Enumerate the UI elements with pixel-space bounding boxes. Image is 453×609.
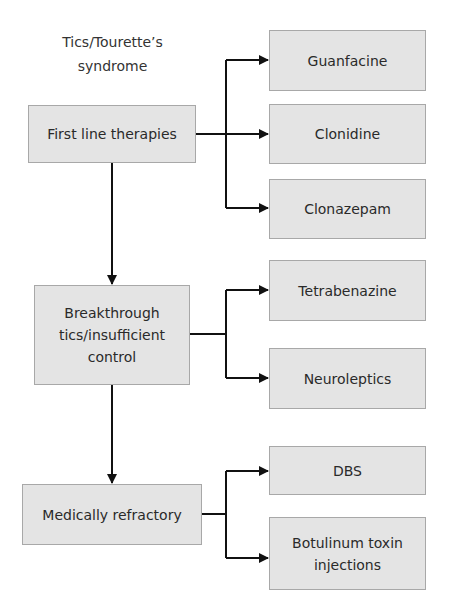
treatment-label: DBS xyxy=(333,460,362,482)
stage-label: First line therapies xyxy=(47,123,177,145)
treatment-label-line-1: Botulinum toxin xyxy=(292,532,403,554)
stage-label-line-1: Breakthrough xyxy=(64,302,159,324)
treatment-neuroleptics: Neuroleptics xyxy=(269,348,426,409)
treatment-clonidine: Clonidine xyxy=(269,104,426,164)
treatment-tetrabenazine: Tetrabenazine xyxy=(269,260,426,321)
stage-label-line-2: tics/insufficient xyxy=(59,324,165,346)
stage-first-line-therapies: First line therapies xyxy=(28,105,196,163)
stage-medically-refractory: Medically refractory xyxy=(22,484,202,545)
treatment-clonazepam: Clonazepam xyxy=(269,179,426,239)
treatment-dbs: DBS xyxy=(269,446,426,495)
treatment-label: Neuroleptics xyxy=(304,368,392,390)
treatment-guanfacine: Guanfacine xyxy=(269,30,426,91)
stage-label-line-3: control xyxy=(88,346,137,368)
stage-breakthrough-tics: Breakthrough tics/insufficient control xyxy=(34,285,190,385)
treatment-botulinum-toxin: Botulinum toxin injections xyxy=(269,517,426,590)
treatment-label: Guanfacine xyxy=(308,50,388,72)
treatment-label: Clonazepam xyxy=(304,198,391,220)
treatment-label: Tetrabenazine xyxy=(298,280,396,302)
treatment-label-line-2: injections xyxy=(314,554,381,576)
treatment-label: Clonidine xyxy=(315,123,380,145)
stage-label: Medically refractory xyxy=(42,504,181,526)
